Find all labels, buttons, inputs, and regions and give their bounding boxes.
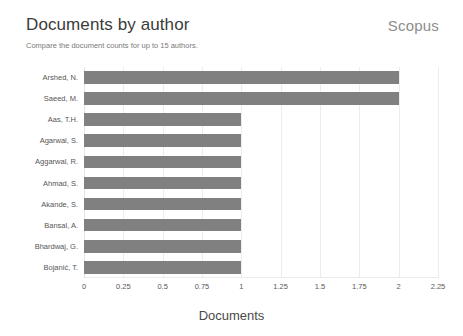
bar[interactable] <box>84 240 241 253</box>
x-axis-tick-label: 1.5 <box>315 282 325 291</box>
x-axis-tick-label: 0.25 <box>116 282 131 291</box>
y-axis-tick-label: Aas, T.H. <box>48 109 78 130</box>
x-axis-tick-label: 0 <box>82 282 86 291</box>
y-axis-tick-label: Ahmad, S. <box>43 173 78 194</box>
y-axis-tick-label: Bojanić, T. <box>44 257 78 278</box>
bar[interactable] <box>84 177 241 190</box>
x-axis-tick-label: 2.25 <box>431 282 446 291</box>
scopus-brand-label: Scopus <box>388 17 439 34</box>
bar-row <box>84 109 438 130</box>
x-axis-tick-label: 1.75 <box>352 282 367 291</box>
y-axis-tick-label: Bansal, A. <box>44 215 78 236</box>
x-axis-tick-label: 2 <box>397 282 401 291</box>
x-axis-title: Documents <box>0 308 463 323</box>
bar[interactable] <box>84 156 241 169</box>
x-axis-labels: 00.250.50.7511.251.51.7522.25 <box>84 282 438 296</box>
bar-row <box>84 173 438 194</box>
x-axis-tick-label: 0.5 <box>157 282 167 291</box>
bar-row <box>84 88 438 109</box>
y-axis-tick-label: Agarwal, S. <box>40 130 78 151</box>
x-axis-tick-label: 0.75 <box>195 282 210 291</box>
bar-row <box>84 215 438 236</box>
bar-row <box>84 67 438 88</box>
bar[interactable] <box>84 198 241 211</box>
bar[interactable] <box>84 71 399 84</box>
bar[interactable] <box>84 113 241 126</box>
bar-row <box>84 130 438 151</box>
chart-card: Documents by author Compare the document… <box>0 0 463 336</box>
bar-row <box>84 236 438 257</box>
y-axis-labels: Arshed, N.Saeed, M.Aas, T.H.Agarwal, S.A… <box>0 67 78 278</box>
bar[interactable] <box>84 261 241 274</box>
chart-subtitle: Compare the document counts for up to 15… <box>26 41 198 50</box>
plot-area <box>84 67 438 278</box>
bar-row <box>84 257 438 278</box>
bar[interactable] <box>84 92 399 105</box>
y-axis-tick-label: Arshed, N. <box>43 67 78 88</box>
chart-plot: Arshed, N.Saeed, M.Aas, T.H.Agarwal, S.A… <box>0 60 463 336</box>
bar-row <box>84 194 438 215</box>
bar[interactable] <box>84 134 241 147</box>
bar[interactable] <box>84 219 241 232</box>
bar-row <box>84 151 438 172</box>
chart-header: Documents by author Compare the document… <box>0 0 463 56</box>
bar-series <box>84 67 438 278</box>
gridline <box>438 67 439 278</box>
y-axis-tick-label: Akande, S. <box>41 194 78 215</box>
page-title: Documents by author <box>26 15 189 35</box>
x-axis-tick-label: 1 <box>239 282 243 291</box>
y-axis-tick-label: Bhardwaj, G. <box>35 236 78 257</box>
y-axis-tick-label: Saeed, M. <box>44 88 78 109</box>
x-axis-tick-label: 1.25 <box>273 282 288 291</box>
y-axis-tick-label: Aggarwal, R. <box>35 151 78 172</box>
